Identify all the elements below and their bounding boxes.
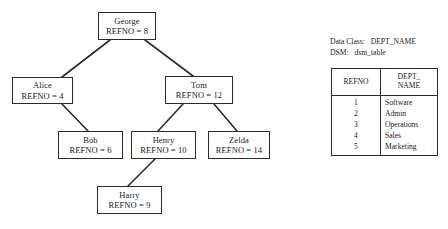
legend-value-data-class: DEPT_NAME (367, 36, 416, 47)
tree-edge-henry-to-harry (128, 159, 155, 186)
table-header-row: REFNO DEPT_ NAME (332, 69, 438, 96)
column-header-refno: REFNO (332, 69, 381, 96)
tree-node-name: Bob (83, 135, 97, 145)
table-body: 1Software2Admin3Operations4Sales5Marketi… (332, 96, 438, 156)
tree-edge-tom-to-henry (158, 104, 183, 131)
tree-node-zelda[interactable]: ZeldaREFNO = 14 (208, 131, 270, 159)
cell-refno: 4 (332, 131, 381, 142)
cell-dept-name: Sales (381, 131, 438, 142)
tree-node-name: Alice (33, 80, 52, 90)
tree-node-refno: REFNO = 8 (106, 26, 148, 36)
legend-block: Data Class: DEPT_NAME DSM: dsm_table (330, 36, 416, 58)
tree-node-george[interactable]: GeorgeREFNO = 8 (98, 12, 156, 40)
cell-dept-name: Operations (381, 120, 438, 131)
tree-node-name: Henry (153, 135, 175, 145)
cell-refno: 1 (332, 96, 381, 110)
tree-node-refno: REFNO = 12 (176, 90, 222, 100)
cell-dept-name: Software (381, 96, 438, 110)
table-row: 5Marketing (332, 142, 438, 156)
tree-node-refno: REFNO = 4 (21, 91, 63, 101)
table-header: REFNO DEPT_ NAME (332, 69, 438, 96)
cell-dept-name: Admin (381, 109, 438, 120)
tree-node-alice[interactable]: AliceREFNO = 4 (12, 77, 73, 104)
legend-row-dsm: DSM: dsm_table (330, 47, 416, 58)
table-row: 3Operations (332, 120, 438, 131)
cell-refno: 5 (332, 142, 381, 156)
legend-row-data-class: Data Class: DEPT_NAME (330, 36, 416, 47)
tree-edge-george-to-alice (62, 40, 110, 77)
tree-edge-alice-to-bob (62, 104, 88, 131)
tree-node-tom[interactable]: TomREFNO = 12 (165, 76, 233, 104)
diagram-canvas: GeorgeREFNO = 8AliceREFNO = 4TomREFNO = … (0, 0, 448, 229)
table-row: 4Sales (332, 131, 438, 142)
cell-dept-name: Marketing (381, 142, 438, 156)
column-header-dept-name-line2: NAME (385, 82, 433, 91)
tree-edge-george-to-tom (145, 40, 193, 76)
cell-refno: 3 (332, 120, 381, 131)
tree-node-refno: REFNO = 6 (69, 145, 111, 155)
legend-value-dsm: dsm_table (350, 47, 385, 58)
tree-node-refno: REFNO = 9 (108, 200, 150, 210)
tree-node-name: George (114, 16, 139, 26)
tree-edge-tom-to-zelda (214, 104, 237, 131)
tree-node-harry[interactable]: HarryREFNO = 9 (97, 186, 162, 214)
tree-node-refno: REFNO = 14 (216, 145, 262, 155)
legend-label-data-class: Data Class: (330, 36, 365, 47)
tree-node-name: Harry (119, 190, 139, 200)
dept-reference-table: REFNO DEPT_ NAME 1Software2Admin3Operati… (331, 68, 438, 156)
table-row: 2Admin (332, 109, 438, 120)
tree-node-bob[interactable]: BobREFNO = 6 (58, 131, 123, 159)
tree-node-name: Tom (191, 80, 207, 90)
cell-refno: 2 (332, 109, 381, 120)
tree-node-name: Zelda (229, 135, 249, 145)
legend-label-dsm: DSM: (330, 47, 349, 58)
tree-node-refno: REFNO = 10 (140, 145, 186, 155)
tree-node-henry[interactable]: HenryREFNO = 10 (131, 131, 196, 159)
table-row: 1Software (332, 96, 438, 110)
column-header-dept-name: DEPT_ NAME (381, 69, 438, 96)
